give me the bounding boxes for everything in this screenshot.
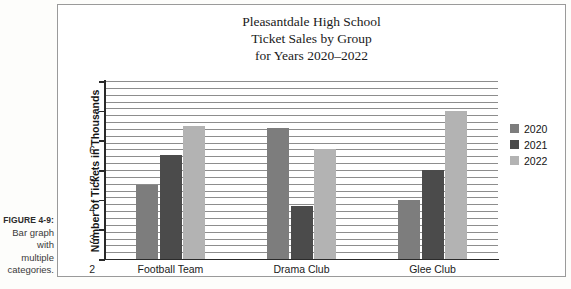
bar-football-team-2020 [136, 185, 158, 259]
y-axis-tick [99, 111, 105, 113]
y-axis-tick [99, 229, 105, 231]
bar-glee-club-2020 [398, 200, 420, 259]
legend-item-2021[interactable]: 2021 [510, 137, 562, 152]
x-tick-label: Football Team [105, 263, 236, 275]
y-tick-label: 2 [70, 263, 95, 275]
chart-title-line-3: for Years 2020–2022 [58, 47, 565, 64]
bar-glee-club-2022 [445, 111, 467, 259]
chart-title-line-1: Pleasantdale High School [58, 13, 565, 30]
figure-caption-line-3: multiple [0, 252, 54, 265]
chart-title-line-2: Ticket Sales by Group [58, 30, 565, 47]
legend-label: 2022 [524, 155, 547, 167]
figure-caption-line-2: with [0, 239, 54, 252]
bar-drama-club-2022 [314, 149, 336, 259]
bar-football-team-2022 [183, 126, 205, 260]
bar-drama-club-2020 [267, 128, 289, 259]
x-axis-line [104, 259, 499, 261]
bar-glee-club-2021 [422, 170, 444, 259]
y-axis-tick [99, 200, 105, 202]
y-axis-tick-labels: 0123456 [70, 75, 95, 265]
x-tick-label: Glee Club [367, 263, 498, 275]
figure-caption-number: FIGURE 4-9: [0, 214, 54, 227]
legend-swatch-icon [510, 140, 519, 149]
legend-item-2022[interactable]: 2022 [510, 153, 562, 168]
y-axis-tick [99, 170, 105, 172]
figure-page: FIGURE 4-9: Bar graph with multiple cate… [0, 0, 571, 289]
y-tick-label: 3 [70, 233, 95, 245]
bar-football-team-2021 [160, 155, 182, 259]
figure-caption: FIGURE 4-9: Bar graph with multiple cate… [0, 214, 54, 277]
x-tick-label: Drama Club [236, 263, 367, 275]
y-tick-label: 4 [70, 203, 95, 215]
chart-title: Pleasantdale High School Ticket Sales by… [58, 13, 565, 64]
chart-frame: Pleasantdale High School Ticket Sales by… [57, 4, 566, 277]
figure-caption-line-4: categories. [0, 264, 54, 277]
legend-label: 2020 [524, 123, 547, 135]
y-tick-label: 6 [70, 144, 95, 156]
y-axis-tick [99, 81, 105, 83]
y-tick-label: 5 [70, 174, 95, 186]
legend-swatch-icon [510, 156, 519, 165]
legend-label: 2021 [524, 139, 547, 151]
bar-drama-club-2021 [291, 206, 313, 259]
legend-swatch-icon [510, 124, 519, 133]
plot-area [105, 81, 498, 259]
legend-item-2020[interactable]: 2020 [510, 121, 562, 136]
y-axis-tick [99, 259, 105, 261]
chart-legend: 202020212022 [510, 121, 562, 169]
figure-caption-line-1: Bar graph [0, 227, 54, 240]
y-axis-tick [99, 140, 105, 142]
